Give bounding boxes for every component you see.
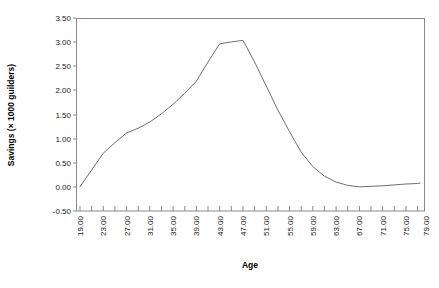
x-tick-label: 47.00: [239, 215, 248, 236]
x-tick-label: 79.00: [422, 215, 431, 236]
x-tick-label: 75.00: [402, 215, 411, 236]
x-tick-label: 63.00: [332, 215, 341, 236]
x-tick-label: 59.00: [309, 215, 318, 236]
y-tick-label: 0.00: [55, 183, 71, 192]
y-tick-label: 0.50: [55, 159, 71, 168]
x-tick-label: 67.00: [355, 215, 364, 236]
x-tick-label: 23.00: [99, 215, 108, 236]
y-tick-label: 3.50: [55, 14, 71, 23]
x-axis-title: Age: [242, 260, 258, 270]
x-tick-label: 51.00: [262, 215, 271, 236]
x-tick-label: 35.00: [169, 215, 178, 236]
x-tick-label: 43.00: [216, 215, 225, 236]
y-tick-labels: 3.50 3.00 2.50 2.00 1.50 1.00 0.50 0.00 …: [53, 14, 72, 216]
x-axis-ticks: [80, 206, 418, 211]
y-axis-ticks: [73, 18, 76, 211]
x-tick-label: 27.00: [123, 215, 132, 236]
x-tick-label: 39.00: [192, 215, 201, 236]
y-tick-label: 3.00: [55, 38, 71, 47]
x-tick-label: 31.00: [146, 215, 155, 236]
y-axis-title: Savings (× 1000 guilders): [6, 64, 16, 166]
y-tick-label: 1.50: [55, 111, 71, 120]
savings-line-chart: Savings (× 1000 guilders) 3.50 3.00 2.50…: [0, 0, 439, 288]
y-tick-label: 2.50: [55, 62, 71, 71]
plot-frame: [77, 19, 425, 212]
savings-by-age-figure: Savings (× 1000 guilders) 3.50 3.00 2.50…: [0, 0, 439, 288]
y-tick-label: -0.50: [53, 207, 72, 216]
y-tick-label: 1.00: [55, 135, 71, 144]
savings-series-line: [80, 40, 420, 186]
y-tick-label: 2.00: [55, 86, 71, 95]
x-tick-labels: 19.00 23.00 27.00 31.00 35.00 39.00 43.0…: [76, 215, 431, 236]
x-tick-label: 71.00: [379, 215, 388, 236]
x-tick-label: 19.00: [76, 215, 85, 236]
x-tick-label: 55.00: [286, 215, 295, 236]
